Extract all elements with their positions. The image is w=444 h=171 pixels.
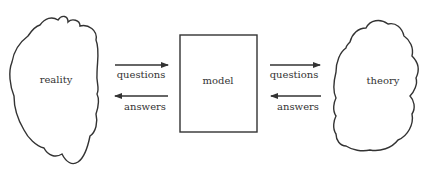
reality-label: reality bbox=[40, 74, 73, 85]
edge-label-answers-left: answers bbox=[124, 101, 166, 112]
theory-label: theory bbox=[367, 75, 400, 86]
reality-cloud-shape bbox=[10, 16, 99, 163]
edge-theory-to-model: answers bbox=[271, 96, 321, 112]
diagram-canvas: reality questions answers model question… bbox=[0, 0, 444, 171]
reality-node: reality bbox=[10, 16, 99, 163]
model-label: model bbox=[202, 75, 233, 86]
edge-model-to-theory: questions bbox=[270, 65, 320, 80]
edge-label-questions-right: questions bbox=[270, 69, 319, 80]
edge-label-questions-left: questions bbox=[117, 69, 166, 80]
model-node: model bbox=[180, 35, 257, 132]
edge-model-to-reality: answers bbox=[115, 96, 168, 112]
edge-label-answers-right: answers bbox=[277, 101, 319, 112]
edge-reality-to-model: questions bbox=[115, 65, 168, 80]
theory-node: theory bbox=[334, 21, 418, 151]
